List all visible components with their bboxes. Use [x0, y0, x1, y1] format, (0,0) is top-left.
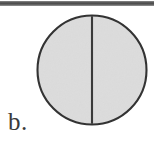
bisected-circle-diagram — [36, 14, 148, 126]
horizontal-rule — [0, 1, 154, 6]
figure-panel: b. — [0, 0, 154, 143]
panel-label: b. — [8, 109, 28, 134]
